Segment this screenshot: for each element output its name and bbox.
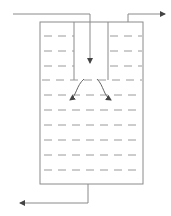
inlet-pipe-arrow: [13, 14, 90, 63]
liquid-levels-annular: [44, 36, 142, 66]
tank-outline: [40, 22, 143, 184]
top-outlet-arrow: [128, 14, 165, 22]
right-flow-arrow: [97, 79, 111, 100]
settling-tank-diagram: [0, 0, 171, 216]
left-flow-arrow: [70, 79, 84, 100]
bottom-outlet-arrow: [20, 184, 88, 203]
liquid-levels-main: [42, 80, 142, 170]
